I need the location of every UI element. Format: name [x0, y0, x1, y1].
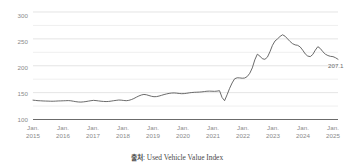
- x-tick-2023: Jan. 2023: [258, 124, 288, 139]
- used-vehicle-value-index-chart: 300 250 200 150 100 Jan. 2015 Jan. 2016 …: [0, 0, 354, 165]
- caption-source-prefix: 출처: [131, 154, 143, 162]
- x-tick-2017-year: 2017: [78, 132, 108, 140]
- x-tick-2019-month: Jan.: [138, 124, 168, 132]
- x-tick-2024: Jan. 2024: [288, 124, 318, 139]
- x-tick-2020-month: Jan.: [168, 124, 198, 132]
- x-tick-2018: Jan. 2018: [108, 124, 138, 139]
- x-tick-2017-month: Jan.: [78, 124, 108, 132]
- x-tick-2019-year: 2019: [138, 132, 168, 140]
- end-value-label: 207.1: [328, 62, 343, 69]
- x-tick-2018-month: Jan.: [108, 124, 138, 132]
- x-tick-2025-month: Jan.: [318, 124, 348, 132]
- caption-source-name: Used Vehicle Value Index: [147, 153, 223, 162]
- x-tick-2015: Jan. 2015: [18, 124, 48, 139]
- x-tick-2023-month: Jan.: [258, 124, 288, 132]
- x-tick-2021-year: 2021: [198, 132, 228, 140]
- y-tick-150: 150: [8, 90, 28, 97]
- x-tick-2015-year: 2015: [18, 132, 48, 140]
- x-tick-2025-year: 2025: [318, 132, 348, 140]
- y-tick-300: 300: [8, 12, 28, 19]
- y-tick-100: 100: [8, 116, 28, 123]
- x-tick-2020: Jan. 2020: [168, 124, 198, 139]
- x-tick-2024-year: 2024: [288, 132, 318, 140]
- x-tick-2023-year: 2023: [258, 132, 288, 140]
- x-tick-2015-month: Jan.: [18, 124, 48, 132]
- chart-plot-area: [0, 0, 354, 165]
- x-tick-2016-year: 2016: [48, 132, 78, 140]
- y-tick-200: 200: [8, 64, 28, 71]
- data-line-used-vehicle-value-index: [33, 35, 338, 102]
- x-tick-2025: Jan. 2025: [318, 124, 348, 139]
- x-tick-2022: Jan. 2022: [228, 124, 258, 139]
- x-tick-2018-year: 2018: [108, 132, 138, 140]
- x-tick-2020-year: 2020: [168, 132, 198, 140]
- x-tick-2019: Jan. 2019: [138, 124, 168, 139]
- x-tick-2017: Jan. 2017: [78, 124, 108, 139]
- x-tick-2021-month: Jan.: [198, 124, 228, 132]
- x-tick-2016: Jan. 2016: [48, 124, 78, 139]
- x-tick-2016-month: Jan.: [48, 124, 78, 132]
- y-tick-250: 250: [8, 38, 28, 45]
- x-tick-2021: Jan. 2021: [198, 124, 228, 139]
- x-tick-2024-month: Jan.: [288, 124, 318, 132]
- chart-source-caption: 출처: Used Vehicle Value Index: [0, 152, 354, 162]
- x-tick-2022-month: Jan.: [228, 124, 258, 132]
- x-tick-2022-year: 2022: [228, 132, 258, 140]
